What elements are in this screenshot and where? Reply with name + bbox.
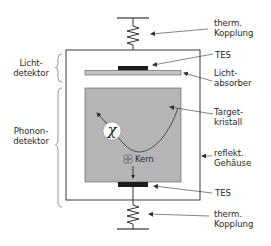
label-tes-bottom: TES <box>215 188 231 198</box>
label-housing-line1: reflekt. <box>214 148 251 158</box>
label-therm-coupling-bottom: therm. Kopplung <box>214 209 253 229</box>
nucleus-label: Kern <box>135 154 154 164</box>
label-housing-line2: Gehäuse <box>214 158 251 168</box>
label-therm-top-line2: Kopplung <box>214 28 253 38</box>
label-phonon-detector-line1: Phonon- <box>6 126 56 136</box>
label-target-line2: kristall <box>214 117 243 127</box>
label-tes-top-text: TES <box>215 50 231 60</box>
label-light-detector-line1: Licht- <box>6 58 56 68</box>
light-detector-brace <box>56 54 63 82</box>
label-light-absorber: Licht- absorber <box>214 68 251 88</box>
label-absorber-line1: Licht- <box>214 68 251 78</box>
label-therm-coupling-top: therm. Kopplung <box>214 18 253 38</box>
label-tes-bottom-text: TES <box>215 188 231 198</box>
label-target-line1: Target- <box>214 107 243 117</box>
label-therm-bottom-line2: Kopplung <box>214 219 253 229</box>
label-therm-top-line1: therm. <box>214 18 253 28</box>
callout-therm-top <box>151 29 208 34</box>
label-light-detector: Licht- detektor <box>6 58 56 78</box>
label-reflective-housing: reflekt. Gehäuse <box>214 148 251 168</box>
phonon-detector-brace <box>56 88 63 207</box>
label-absorber-line2: absorber <box>214 78 251 88</box>
top-tes-sensor <box>118 66 148 71</box>
label-phonon-detector: Phonon- detektor <box>6 126 56 146</box>
label-target-crystal: Target- kristall <box>214 107 243 127</box>
label-light-detector-line2: detektor <box>6 68 56 78</box>
bottom-tes-sensor <box>118 182 148 187</box>
label-tes-top: TES <box>215 50 231 60</box>
label-therm-bottom-line1: therm. <box>214 209 253 219</box>
label-phonon-detector-line2: detektor <box>6 136 56 146</box>
chi-symbol: χ <box>103 122 121 138</box>
detector-diagram: χ Kern therm. Kopplung TES Licht- absorb… <box>0 0 271 246</box>
light-absorber <box>85 71 181 76</box>
callout-therm-bottom <box>149 214 209 216</box>
